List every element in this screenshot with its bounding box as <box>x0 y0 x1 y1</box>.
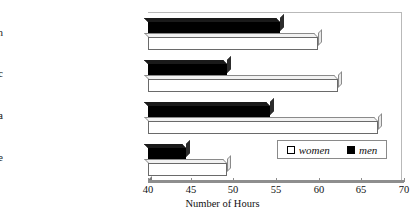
bar-end-cap <box>378 113 382 130</box>
x-tick-label-70: 70 <box>389 184 419 195</box>
legend-label-men: men <box>359 144 377 156</box>
bar-end-cap <box>280 14 284 31</box>
category-label-latin-america: Latin America and Caribbean <box>0 27 3 38</box>
bar-front-face <box>148 37 318 50</box>
bar-women-latin-america <box>148 37 318 50</box>
x-tick-55 <box>276 178 277 182</box>
bar-end-cap <box>227 56 231 73</box>
legend-item-men: men <box>347 144 377 156</box>
x-tick-label-65: 65 <box>346 184 376 195</box>
x-tick-label-60: 60 <box>304 184 334 195</box>
x-tick-60 <box>319 178 320 182</box>
bar-end-cap <box>227 155 231 172</box>
legend-item-women: women <box>287 144 330 156</box>
bar-women-asia-pacific <box>148 79 338 92</box>
bar-women-africa <box>148 121 378 134</box>
x-tick-50 <box>233 178 234 182</box>
plot-frame-top <box>148 12 402 13</box>
legend-label-women: women <box>299 144 330 156</box>
filled-square-icon <box>347 146 355 154</box>
plot-frame-right <box>401 12 402 180</box>
bar-end-cap <box>270 98 274 115</box>
bar-chart: Latin America and Caribbean Asia and Pac… <box>0 0 420 217</box>
x-tick-40 <box>148 178 149 182</box>
category-label-africa: Africa <box>0 110 3 121</box>
bar-end-cap <box>338 71 342 88</box>
x-tick-label-50: 50 <box>218 184 248 195</box>
category-label-western-europe: Western Europe <box>0 152 3 163</box>
x-tick-label-45: 45 <box>176 184 206 195</box>
x-tick-45 <box>191 178 192 182</box>
x-tick-65 <box>361 178 362 182</box>
hollow-square-icon <box>287 146 295 154</box>
chart-legend: women men <box>277 140 387 159</box>
x-tick-70 <box>404 178 405 182</box>
bar-front-face <box>148 121 378 134</box>
x-tick-label-40: 40 <box>133 184 163 195</box>
category-label-asia-pacific: Asia and Pacific <box>0 68 3 79</box>
bar-front-face <box>148 163 227 176</box>
x-axis-title: Number of Hours <box>0 198 420 209</box>
bar-end-cap <box>186 140 190 157</box>
x-tick-label-55: 55 <box>261 184 291 195</box>
bar-women-western-europe <box>148 163 227 176</box>
bar-front-face <box>148 79 338 92</box>
bar-end-cap <box>318 29 322 46</box>
